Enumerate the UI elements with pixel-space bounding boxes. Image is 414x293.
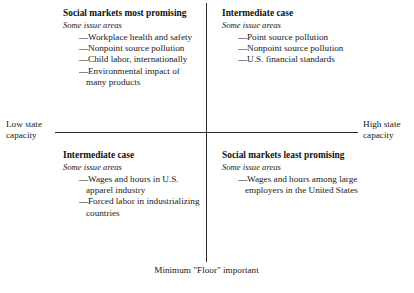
quadrant-bottom-left-subtitle: Some issue areas xyxy=(63,162,201,173)
em-dash-marker: — xyxy=(79,66,88,76)
em-dash-marker: — xyxy=(79,174,88,184)
list-item: —U.S. financial standards xyxy=(238,54,374,65)
list-item: —Nonpoint source pollution xyxy=(238,43,374,54)
horizontal-axis-line xyxy=(55,132,358,133)
quadrant-top-right-list: —Point source pollution —Nonpoint source… xyxy=(222,32,374,66)
quadrant-top-left-title: Social markets most promising xyxy=(63,8,201,20)
quadrant-top-left-subtitle: Some issue areas xyxy=(63,20,201,31)
list-item-label: Nonpoint source pollution xyxy=(247,43,343,53)
list-item-label: Forced labor in industrializing countrie… xyxy=(86,196,200,217)
quadrant-bottom-right: Social markets least promising Some issu… xyxy=(222,150,374,196)
list-item-label: Environmental impact of many products xyxy=(86,66,180,87)
list-item: —Workplace health and safety xyxy=(79,32,201,43)
axis-label-low-state-capacity: Low state capacity xyxy=(6,119,56,142)
quadrant-bottom-right-subtitle: Some issue areas xyxy=(222,162,374,173)
quadrant-top-right: Intermediate case Some issue areas —Poin… xyxy=(222,8,374,66)
list-item-label: Point source pollution xyxy=(247,32,328,42)
list-item-label: Child labor, internationally xyxy=(88,54,187,64)
list-item-label: Workplace health and safety xyxy=(88,32,192,42)
matrix-figure: Low state capacity High state capacity M… xyxy=(0,0,414,293)
quadrant-top-right-title: Intermediate case xyxy=(222,8,374,20)
list-item-label: Wages and hours among large employers in… xyxy=(245,174,358,195)
list-item: —Forced labor in industrializing countri… xyxy=(79,196,201,219)
axis-label-high-state-capacity: High state capacity xyxy=(363,119,414,142)
quadrant-top-left-list: —Workplace health and safety —Nonpoint s… xyxy=(63,32,201,88)
em-dash-marker: — xyxy=(238,174,247,184)
quadrant-bottom-right-list: —Wages and hours among large employers i… xyxy=(222,174,374,197)
list-item: —Wages and hours among large employers i… xyxy=(238,174,374,197)
em-dash-marker: — xyxy=(238,32,247,42)
list-item: —Wages and hours in U.S. apparel industr… xyxy=(79,174,201,197)
em-dash-marker: — xyxy=(238,43,247,53)
quadrant-bottom-left-title: Intermediate case xyxy=(63,150,201,162)
quadrant-top-left: Social markets most promising Some issue… xyxy=(63,8,201,88)
list-item: —Point source pollution xyxy=(238,32,374,43)
axis-caption-minimum-floor: Minimum "Floor" important xyxy=(125,265,288,277)
em-dash-marker: — xyxy=(79,32,88,42)
em-dash-marker: — xyxy=(79,54,88,64)
list-item: —Nonpoint source pollution xyxy=(79,43,201,54)
em-dash-marker: — xyxy=(79,43,88,53)
quadrant-bottom-right-title: Social markets least promising xyxy=(222,150,374,162)
quadrant-top-right-subtitle: Some issue areas xyxy=(222,20,374,31)
list-item-label: U.S. financial standards xyxy=(247,54,335,64)
em-dash-marker: — xyxy=(238,54,247,64)
list-item: —Child labor, internationally xyxy=(79,54,201,65)
quadrant-bottom-left-list: —Wages and hours in U.S. apparel industr… xyxy=(63,174,201,219)
em-dash-marker: — xyxy=(79,196,88,206)
list-item-label: Wages and hours in U.S. apparel industry xyxy=(86,174,179,195)
quadrant-bottom-left: Intermediate case Some issue areas —Wage… xyxy=(63,150,201,219)
list-item-label: Nonpoint source pollution xyxy=(88,43,184,53)
list-item: —Environmental impact of many products xyxy=(79,66,201,89)
